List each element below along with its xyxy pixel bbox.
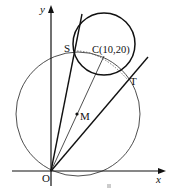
y-axis-arrow-icon <box>48 5 54 13</box>
geometry-diagram: y x O S T C(10,20) M <box>0 0 173 192</box>
point-M-label: M <box>80 110 90 122</box>
point-C-label: C(10,20) <box>92 44 130 56</box>
y-axis-label: y <box>39 3 45 15</box>
point-T-label: T <box>130 75 137 87</box>
watermark-speck <box>107 184 111 188</box>
tangent-OS <box>51 14 82 171</box>
x-axis-label: x <box>155 173 161 185</box>
point-S-label: S <box>64 42 70 54</box>
origin-label: O <box>42 172 50 184</box>
point-M <box>75 112 78 115</box>
